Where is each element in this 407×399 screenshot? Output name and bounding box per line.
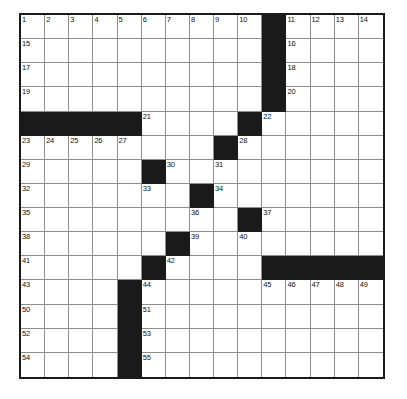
grid-cell[interactable] xyxy=(166,112,190,136)
grid-cell[interactable] xyxy=(190,87,214,111)
grid-cell[interactable] xyxy=(166,208,190,232)
grid-cell[interactable] xyxy=(93,280,117,304)
grid-cell[interactable]: 13 xyxy=(335,15,359,39)
grid-cell[interactable] xyxy=(93,87,117,111)
grid-cell[interactable] xyxy=(45,208,69,232)
grid-cell[interactable]: 33 xyxy=(142,184,166,208)
grid-cell[interactable] xyxy=(214,329,238,353)
grid-cell[interactable] xyxy=(166,136,190,160)
grid-cell[interactable] xyxy=(238,329,262,353)
grid-cell[interactable] xyxy=(311,208,335,232)
grid-cell[interactable] xyxy=(69,63,93,87)
grid-cell[interactable]: 50 xyxy=(21,305,45,329)
grid-cell[interactable] xyxy=(359,63,383,87)
grid-cell[interactable] xyxy=(311,305,335,329)
grid-cell[interactable] xyxy=(166,329,190,353)
grid-cell[interactable] xyxy=(359,184,383,208)
grid-cell[interactable] xyxy=(311,112,335,136)
grid-cell[interactable] xyxy=(311,136,335,160)
grid-cell[interactable]: 10 xyxy=(238,15,262,39)
grid-cell[interactable] xyxy=(166,305,190,329)
grid-cell[interactable] xyxy=(335,232,359,256)
grid-cell[interactable] xyxy=(335,305,359,329)
grid-cell[interactable] xyxy=(93,208,117,232)
grid-cell[interactable] xyxy=(286,305,310,329)
grid-cell[interactable]: 4 xyxy=(93,15,117,39)
grid-cell[interactable] xyxy=(45,353,69,377)
grid-cell[interactable]: 18 xyxy=(286,63,310,87)
grid-cell[interactable] xyxy=(166,184,190,208)
grid-cell[interactable] xyxy=(190,63,214,87)
grid-cell[interactable] xyxy=(93,353,117,377)
grid-cell[interactable] xyxy=(238,63,262,87)
grid-cell[interactable] xyxy=(262,353,286,377)
grid-cell[interactable]: 54 xyxy=(21,353,45,377)
grid-cell[interactable] xyxy=(142,136,166,160)
grid-cell[interactable]: 35 xyxy=(21,208,45,232)
grid-cell[interactable] xyxy=(69,353,93,377)
grid-cell[interactable]: 30 xyxy=(166,160,190,184)
grid-cell[interactable] xyxy=(190,305,214,329)
grid-cell[interactable] xyxy=(93,256,117,280)
grid-cell[interactable] xyxy=(93,63,117,87)
grid-cell[interactable] xyxy=(359,305,383,329)
grid-cell[interactable] xyxy=(238,184,262,208)
grid-cell[interactable] xyxy=(142,208,166,232)
grid-cell[interactable] xyxy=(359,208,383,232)
grid-cell[interactable] xyxy=(335,63,359,87)
grid-cell[interactable] xyxy=(335,353,359,377)
grid-cell[interactable] xyxy=(118,87,142,111)
grid-cell[interactable]: 49 xyxy=(359,280,383,304)
grid-cell[interactable] xyxy=(262,232,286,256)
grid-cell[interactable] xyxy=(311,63,335,87)
grid-cell[interactable] xyxy=(69,329,93,353)
grid-cell[interactable] xyxy=(166,63,190,87)
grid-cell[interactable] xyxy=(45,280,69,304)
grid-cell[interactable] xyxy=(359,87,383,111)
grid-cell[interactable]: 11 xyxy=(286,15,310,39)
grid-cell[interactable] xyxy=(335,329,359,353)
grid-cell[interactable]: 37 xyxy=(262,208,286,232)
grid-cell[interactable] xyxy=(166,280,190,304)
grid-cell[interactable] xyxy=(142,39,166,63)
grid-cell[interactable]: 39 xyxy=(190,232,214,256)
grid-cell[interactable]: 41 xyxy=(21,256,45,280)
grid-cell[interactable]: 3 xyxy=(69,15,93,39)
grid-cell[interactable] xyxy=(238,305,262,329)
grid-cell[interactable] xyxy=(238,160,262,184)
grid-cell[interactable] xyxy=(359,160,383,184)
grid-cell[interactable]: 48 xyxy=(335,280,359,304)
grid-cell[interactable] xyxy=(190,353,214,377)
grid-cell[interactable]: 22 xyxy=(262,112,286,136)
grid-cell[interactable]: 42 xyxy=(166,256,190,280)
grid-cell[interactable] xyxy=(190,136,214,160)
grid-cell[interactable] xyxy=(262,136,286,160)
grid-cell[interactable]: 26 xyxy=(93,136,117,160)
grid-cell[interactable] xyxy=(335,160,359,184)
grid-cell[interactable] xyxy=(286,136,310,160)
grid-cell[interactable] xyxy=(359,329,383,353)
grid-cell[interactable] xyxy=(142,63,166,87)
grid-cell[interactable] xyxy=(190,39,214,63)
grid-cell[interactable]: 9 xyxy=(214,15,238,39)
grid-cell[interactable] xyxy=(69,256,93,280)
grid-cell[interactable] xyxy=(142,232,166,256)
grid-cell[interactable] xyxy=(45,184,69,208)
grid-cell[interactable] xyxy=(118,184,142,208)
grid-cell[interactable]: 8 xyxy=(190,15,214,39)
grid-cell[interactable] xyxy=(214,63,238,87)
grid-cell[interactable] xyxy=(214,39,238,63)
grid-cell[interactable]: 1 xyxy=(21,15,45,39)
grid-cell[interactable]: 25 xyxy=(69,136,93,160)
grid-cell[interactable] xyxy=(335,112,359,136)
grid-cell[interactable] xyxy=(93,305,117,329)
grid-cell[interactable]: 51 xyxy=(142,305,166,329)
grid-cell[interactable]: 40 xyxy=(238,232,262,256)
grid-cell[interactable] xyxy=(311,87,335,111)
grid-cell[interactable] xyxy=(93,184,117,208)
grid-cell[interactable]: 34 xyxy=(214,184,238,208)
grid-cell[interactable] xyxy=(311,329,335,353)
grid-cell[interactable]: 45 xyxy=(262,280,286,304)
grid-cell[interactable] xyxy=(93,329,117,353)
grid-cell[interactable]: 2 xyxy=(45,15,69,39)
